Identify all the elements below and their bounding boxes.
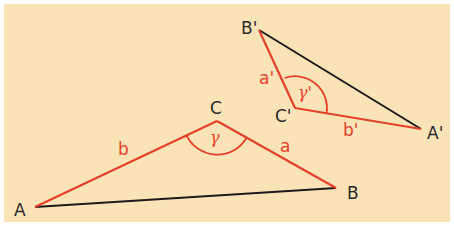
angle-gamma-label: γ bbox=[210, 128, 220, 147]
vertex-c-label: C bbox=[210, 98, 222, 118]
side-a bbox=[217, 121, 336, 188]
side-b-label: b bbox=[118, 139, 129, 159]
side-c bbox=[35, 188, 336, 207]
vertex-b-prime-label: B' bbox=[241, 18, 257, 38]
side-b-prime-label: b' bbox=[343, 120, 358, 140]
side-a-label: a bbox=[280, 136, 290, 156]
triangle-diagram: A B C b a γ B' C' A' a' b' γ' bbox=[0, 0, 454, 226]
vertex-a-prime-label: A' bbox=[427, 123, 443, 143]
side-a-prime-label: a' bbox=[259, 68, 274, 88]
vertex-b-label: B bbox=[347, 183, 359, 203]
vertex-c-prime-label: C' bbox=[275, 106, 292, 126]
vertex-a-label: A bbox=[14, 200, 26, 220]
side-b bbox=[35, 121, 217, 207]
angle-gamma-prime-label: γ' bbox=[298, 83, 312, 102]
